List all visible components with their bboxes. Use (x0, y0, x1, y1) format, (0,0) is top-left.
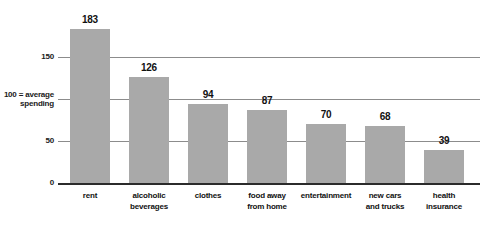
category-label-rent: rent (62, 190, 118, 201)
category-label-entertainment: entertainment (294, 190, 358, 201)
value-label-food-away-from-home: 87 (247, 95, 287, 106)
y-tick-0-label: 0 (50, 178, 54, 187)
value-label-alcoholic-beverages: 126 (129, 62, 169, 73)
y-tick-50-label: 50 (46, 136, 55, 145)
category-label-alcoholic-beverages: alcoholic beverages (121, 190, 177, 212)
category-label-food-away-from-home: food away from home (239, 190, 295, 212)
value-label-new-cars-and-trucks: 68 (365, 111, 405, 122)
bar-clothes[interactable] (188, 104, 228, 183)
plot-area: 150 100 = average spending 50 0 183 126 … (0, 0, 498, 226)
value-label-entertainment: 70 (306, 109, 346, 120)
y-tick-150-label: 150 (41, 52, 54, 61)
category-label-clothes: clothes (180, 190, 236, 201)
bar-alcoholic-beverages[interactable] (129, 77, 169, 183)
bar-health-insurance[interactable] (424, 150, 464, 183)
bar-new-cars-and-trucks[interactable] (365, 126, 405, 183)
value-label-health-insurance: 39 (424, 135, 464, 146)
gridline-150 (58, 57, 480, 58)
value-label-clothes: 94 (188, 89, 228, 100)
category-label-new-cars-and-trucks: new cars and trucks (357, 190, 413, 212)
x-axis-line (58, 183, 480, 185)
category-label-health-insurance: health insurance (416, 190, 472, 212)
bar-chart: 150 100 = average spending 50 0 183 126 … (0, 0, 498, 226)
bar-rent[interactable] (70, 29, 110, 183)
y-tick-100-label: 100 = average spending (4, 90, 54, 108)
bar-entertainment[interactable] (306, 124, 346, 183)
value-label-rent: 183 (70, 14, 110, 25)
bar-food-away-from-home[interactable] (247, 110, 287, 183)
